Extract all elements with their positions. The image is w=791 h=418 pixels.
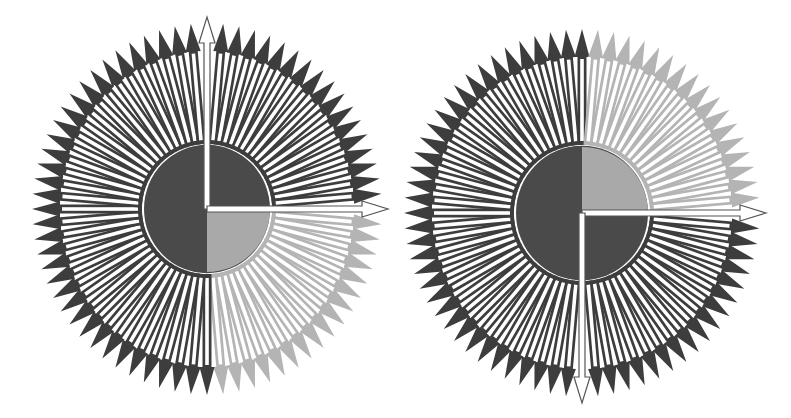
radial-arrow-diagrams: [0, 0, 791, 418]
figure-canvas: [0, 0, 791, 418]
right-radial-arrow-diagram: [404, 29, 766, 403]
left-radial-arrow-diagram: [32, 17, 388, 395]
